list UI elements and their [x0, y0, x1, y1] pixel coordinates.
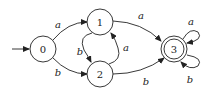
- edge-1-2: [82, 33, 92, 62]
- edge-label-0-1: a: [55, 19, 61, 30]
- edge-2-3: [113, 58, 164, 74]
- edge-label-2-1: a: [123, 42, 129, 53]
- state-2: 2: [87, 61, 113, 87]
- state-1-label: 1: [97, 17, 103, 28]
- self-loop-3-a: [183, 31, 200, 43]
- edge-label-2-3: b: [143, 76, 149, 87]
- state-0-label: 0: [40, 44, 46, 55]
- automaton-diagram: a b b a a b a b 0 1 2 3: [0, 0, 208, 93]
- edge-label-1-3: a: [138, 10, 144, 21]
- edge-label-3-3-b: b: [187, 74, 193, 85]
- edge-label-1-2: b: [77, 46, 83, 57]
- state-1: 1: [87, 9, 113, 35]
- state-3-label: 3: [171, 44, 177, 55]
- edge-2-1: [109, 33, 119, 64]
- state-3-accepting: 3: [161, 36, 187, 62]
- edge-1-3: [113, 21, 161, 41]
- state-2-label: 2: [97, 69, 103, 80]
- state-0: 0: [30, 36, 56, 62]
- edge-label-3-3-a: a: [188, 16, 194, 27]
- edge-label-0-2: b: [55, 67, 61, 78]
